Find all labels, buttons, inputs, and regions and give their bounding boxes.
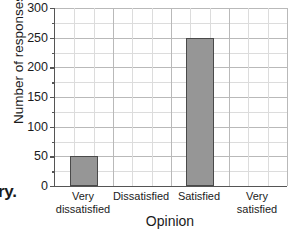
x-axis-tick-label: Very satisfied	[237, 190, 277, 215]
bar	[186, 38, 214, 186]
y-axis-tick	[50, 156, 55, 157]
x-axis-title: Opinion	[54, 213, 286, 229]
y-axis-tick	[50, 38, 55, 39]
grid-line-vertical	[171, 8, 172, 186]
y-axis-tick	[50, 8, 55, 9]
plot-area: 050100150200250300	[54, 8, 287, 187]
grid-line-vertical	[229, 8, 230, 186]
y-axis-tick-label: 150	[27, 90, 48, 104]
grid-line-vertical	[287, 8, 288, 186]
grid-line-vertical	[132, 8, 133, 186]
y-axis-tick-label: 250	[27, 31, 48, 45]
y-axis-tick	[50, 67, 55, 68]
grid-line-vertical	[113, 8, 114, 186]
y-axis-tick	[52, 142, 56, 143]
y-axis-tick	[50, 127, 55, 128]
y-axis-tick	[52, 112, 56, 113]
cropped-text-fragment: ry.	[0, 183, 17, 200]
y-axis-tick	[52, 53, 56, 54]
x-axis-tick-label: Dissatisfied	[113, 190, 169, 203]
y-axis-tick-label: 0	[41, 179, 48, 193]
y-axis-tick	[50, 186, 55, 187]
grid-line-vertical	[268, 8, 269, 186]
y-axis-tick	[50, 97, 55, 98]
y-axis-tick-label: 200	[27, 60, 48, 74]
y-axis-tick-label: 100	[27, 120, 48, 134]
y-axis-tick	[52, 171, 56, 172]
y-axis-tick-label: 300	[27, 1, 48, 15]
grid-line-vertical	[152, 8, 153, 186]
x-axis-tick-label: Very dissatisfied	[56, 190, 110, 215]
y-axis-tick-label: 50	[34, 149, 48, 163]
y-axis-title: Number of responses	[11, 0, 26, 140]
grid-line-vertical	[248, 8, 249, 186]
bar-chart-figure: ry. Number of responses 0501001502002503…	[0, 0, 302, 234]
x-axis-tick-label: Satisfied	[178, 190, 220, 203]
y-axis-tick	[52, 23, 56, 24]
y-axis-tick	[52, 82, 56, 83]
bar	[70, 156, 98, 186]
